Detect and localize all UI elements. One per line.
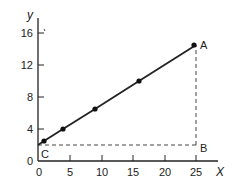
data-point [191,42,196,47]
data-point [41,138,46,143]
x-tick-label: 20 [159,166,171,178]
y-tick-label: 16 [21,27,33,39]
line-chart: 0 4 8 12 16 0 5 10 15 20 25 y X A B C [0,0,235,185]
y-tick-label: 4 [27,123,33,135]
point-label-a: A [200,39,208,51]
y-ticks [38,33,44,129]
y-tick-label: 12 [21,59,33,71]
x-tick-label: 25 [190,166,202,178]
y-axis-label: y [26,8,34,22]
x-ticks [70,155,196,161]
data-point [136,78,141,83]
x-axis-label: X [215,165,225,179]
x-tick-label: 10 [96,166,108,178]
x-tick-label: 0 [36,166,42,178]
point-label-b: B [200,142,207,154]
point-label-c: C [41,148,49,160]
x-tick-label: 5 [67,166,73,178]
x-tick-label: 15 [127,166,139,178]
y-tick-label: 0 [27,155,33,167]
data-point [60,126,65,131]
minor-mark [44,29,45,31]
data-point [92,106,97,111]
y-tick-label: 8 [27,91,33,103]
